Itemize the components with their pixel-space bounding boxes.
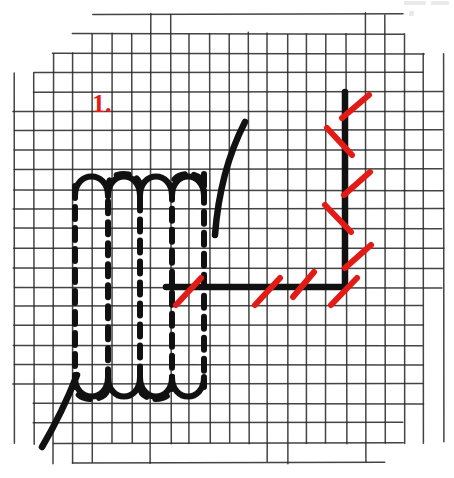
grid-line (210, 34, 211, 443)
grid-line (14, 228, 442, 229)
grid-line (13, 268, 443, 269)
hatching-bottom-arc (172, 377, 204, 397)
grid-line (93, 14, 403, 15)
diagram-canvas: 1. (0, 0, 454, 478)
grid-line (53, 54, 54, 464)
grid-line (53, 53, 425, 54)
downward-curve-stroke (42, 375, 77, 447)
grid-line (15, 130, 443, 131)
grid-line (365, 13, 366, 462)
hatching-top-arc (140, 177, 172, 197)
scan-edge-smudge (404, 1, 449, 16)
red-question-number-annotation: 1. (92, 89, 112, 118)
grid-line (33, 422, 403, 423)
boundary-line-group (166, 92, 347, 287)
grid-line (72, 462, 384, 463)
grid-line (72, 33, 403, 34)
grid-line (132, 34, 133, 442)
grid-line (248, 32, 249, 444)
hatching-bottom-arc (75, 377, 108, 397)
hatching-top-arc (172, 177, 204, 197)
grid-line (34, 73, 35, 445)
scanned-diagram-page: 1. (0, 0, 454, 478)
hatching-bottom-arc (108, 377, 140, 397)
grid-line (229, 34, 230, 442)
hatching-bottom-arc (140, 377, 172, 397)
grid-line (53, 443, 403, 444)
grid-line (33, 403, 423, 404)
